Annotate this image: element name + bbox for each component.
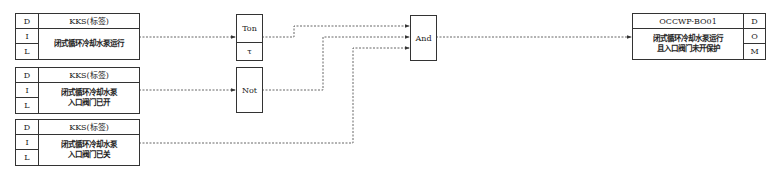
- not-gate-block[interactable]: Not: [236, 67, 263, 113]
- kks-tag: KKS(标签): [39, 68, 139, 83]
- flag-d: D: [744, 14, 765, 29]
- input-block-pump-running[interactable]: D I L KKS(标签) 闭式循环冷却水泵运行: [15, 13, 140, 60]
- output-description: 闭式循环冷却水泵运行 且入口阀门未开保护: [633, 29, 744, 59]
- kks-tag: KKS(标签): [39, 14, 139, 29]
- and-label: And: [411, 16, 436, 60]
- ton-timer-block[interactable]: Ton τ: [236, 14, 263, 61]
- flag-d: D: [16, 14, 39, 29]
- flag-i: I: [16, 29, 39, 44]
- kks-tag: KKS(标签): [39, 120, 139, 135]
- flag-l: L: [16, 150, 39, 165]
- input-block-valve-closed[interactable]: D I L KKS(标签) 闭式循环冷却水泵 入口阀门已关: [15, 119, 140, 166]
- output-block-protection[interactable]: OCCWP-BO01 闭式循环冷却水泵运行 且入口阀门未开保护 D O M: [632, 13, 766, 60]
- flag-d: D: [16, 120, 39, 135]
- input-block-valve-open[interactable]: D I L KKS(标签) 闭式循环冷却水泵 入口阀门已开: [15, 67, 140, 114]
- ton-delay-param: τ: [237, 43, 262, 60]
- output-tag: OCCWP-BO01: [633, 14, 744, 29]
- signal-description: 闭式循环冷却水泵运行: [39, 29, 139, 59]
- flag-l: L: [16, 98, 39, 113]
- signal-description: 闭式循环冷却水泵 入口阀门已关: [39, 135, 139, 165]
- wire-not-to-and: [262, 37, 409, 90]
- wire-input3-to-and: [139, 48, 409, 143]
- not-label: Not: [237, 68, 262, 112]
- flag-o: O: [744, 29, 765, 44]
- flag-i: I: [16, 135, 39, 150]
- wire-ton-to-and: [262, 26, 409, 37]
- flag-l: L: [16, 44, 39, 59]
- ton-label: Ton: [237, 15, 262, 43]
- flag-i: I: [16, 83, 39, 98]
- signal-description: 闭式循环冷却水泵 入口阀门已开: [39, 83, 139, 113]
- flag-d: D: [16, 68, 39, 83]
- flag-m: M: [744, 44, 765, 59]
- and-gate-block[interactable]: And: [410, 15, 437, 61]
